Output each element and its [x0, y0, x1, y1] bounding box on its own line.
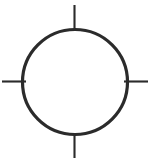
figure-canvas — [0, 0, 150, 161]
circle-tick-diagram — [0, 0, 150, 161]
